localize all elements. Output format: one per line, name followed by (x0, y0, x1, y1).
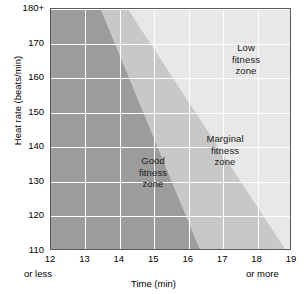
low-zone-line-1: Low (211, 42, 281, 54)
good-zone-line-3: zone (119, 178, 187, 190)
gridline-vertical (85, 9, 86, 249)
marginal-zone-line-1: Marginal (187, 133, 263, 145)
marginal-zone-line-2: fitness (187, 145, 263, 157)
x-axis-tick-label: 17 (207, 253, 237, 264)
y-axis-title: Heat rate (beats/min) (12, 26, 23, 176)
x-axis-tick-label: 16 (173, 253, 203, 264)
x-axis-tick-label: 13 (69, 253, 99, 264)
marginal-zone-line-3: zone (187, 156, 263, 168)
y-axis-tick-label: 150 (0, 107, 48, 117)
low-zone-line-2: fitness (211, 54, 281, 66)
y-axis-tick-label: 120 (0, 210, 48, 220)
y-axis-tick-label: 180+ (0, 3, 48, 13)
gridline-vertical (189, 9, 190, 249)
gridline-horizontal (51, 9, 290, 10)
gridline-vertical (154, 9, 155, 249)
gridline-vertical (120, 9, 121, 249)
good-fitness-zone-label: Good fitness zone (119, 155, 187, 190)
x-axis-tick-label: 12 (35, 253, 65, 264)
y-axis-tick-label: 130 (0, 176, 48, 186)
y-axis-tick-label: 170 (0, 38, 48, 48)
fitness-zone-chart: Good fitness zone Marginal fitness zone … (0, 0, 307, 294)
good-zone-line-1: Good (119, 155, 187, 167)
low-fitness-zone-label: Low fitness zone (211, 42, 281, 77)
plot-area: Good fitness zone Marginal fitness zone … (50, 8, 291, 250)
gridline-horizontal (51, 216, 290, 217)
y-axis-tick-label: 140 (0, 141, 48, 151)
low-zone-line-3: zone (211, 65, 281, 77)
marginal-fitness-zone-label: Marginal fitness zone (187, 133, 263, 168)
x-axis-tick-label: 15 (138, 253, 168, 264)
x-axis-tick-label: 19 (276, 253, 306, 264)
y-axis-tick-label: 160 (0, 72, 48, 82)
x-axis-title: Time (min) (0, 278, 307, 289)
x-axis-tick-label: 14 (104, 253, 134, 264)
gridline-horizontal (51, 113, 290, 114)
x-axis-tick-label: 18 (242, 253, 272, 264)
gridline-horizontal (51, 78, 290, 79)
good-zone-line-2: fitness (119, 167, 187, 179)
